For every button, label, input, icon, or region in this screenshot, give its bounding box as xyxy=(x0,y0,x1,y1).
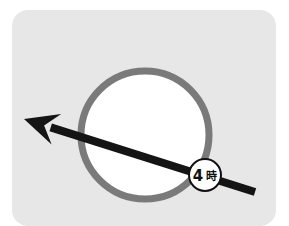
clock-direction-figure: 4 時 xyxy=(0,0,289,226)
diagram-canvas: 4 時 xyxy=(0,0,289,226)
time-marker-badge-unit: 時 xyxy=(206,169,217,183)
time-marker-badge-number: 4 xyxy=(193,167,203,185)
